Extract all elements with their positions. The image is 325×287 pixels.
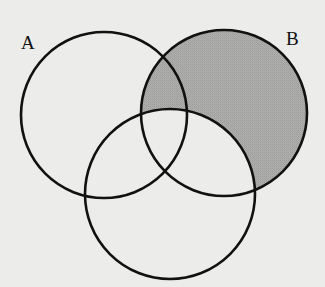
set-b-label: B [286,29,299,48]
set-a-label: A [21,33,35,52]
venn-canvas [0,0,325,287]
venn-diagram: A B [0,0,325,287]
